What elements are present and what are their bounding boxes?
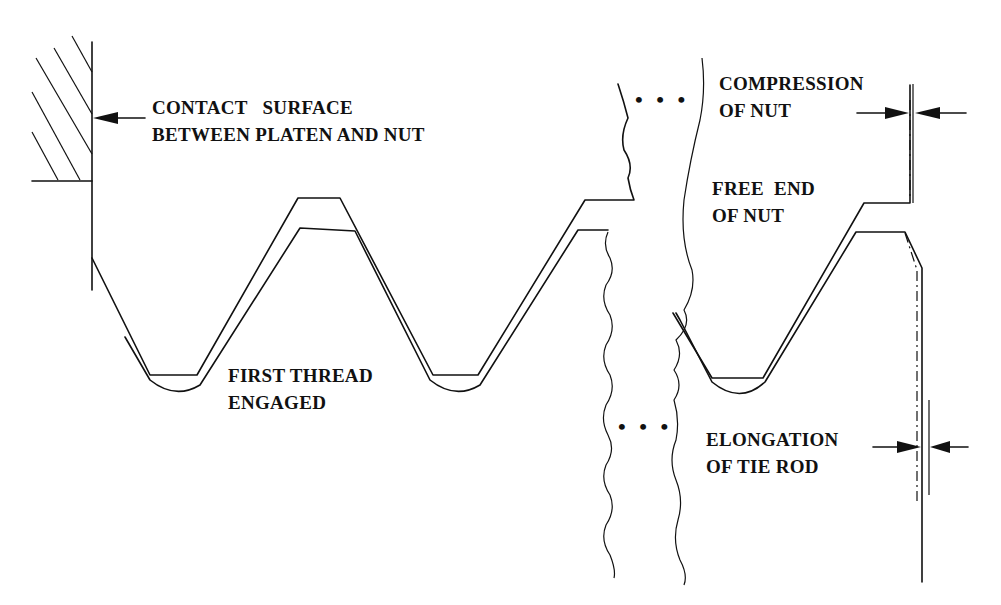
break-line-right — [672, 58, 704, 585]
first-thread-label: FIRST THREAD ENGAGED — [228, 362, 373, 416]
free-end-label-line2: OF NUT — [712, 202, 815, 229]
elongation-dimension-arrows — [873, 400, 968, 495]
tie-rod-thread-profile-right — [676, 232, 922, 582]
free-end-label-line1: FREE END — [712, 175, 815, 202]
platen — [32, 36, 92, 290]
elongation-label-line2: OF TIE ROD — [706, 453, 839, 480]
contact-surface-label-line1: CONTACT SURFACE — [152, 94, 425, 121]
elongation-label: ELONGATION OF TIE ROD — [706, 426, 839, 480]
contact-surface-arrow — [93, 112, 145, 124]
free-end-label: FREE END OF NUT — [712, 175, 815, 229]
first-thread-label-line1: FIRST THREAD — [228, 362, 373, 389]
compression-dimension-arrows — [857, 107, 966, 119]
rod-centerline-shifted — [905, 233, 917, 505]
contact-surface-label-line2: BETWEEN PLATEN AND NUT — [152, 121, 425, 148]
ellipsis-top: • • • — [635, 86, 689, 113]
break-line-left — [603, 232, 614, 578]
elongation-label-line1: ELONGATION — [706, 426, 839, 453]
first-thread-label-line2: ENGAGED — [228, 389, 373, 416]
platen-hatching — [32, 36, 92, 180]
compression-label: COMPRESSION OF NUT — [719, 70, 864, 124]
compression-label-line1: COMPRESSION — [719, 70, 864, 97]
contact-surface-label: CONTACT SURFACE BETWEEN PLATEN AND NUT — [152, 94, 425, 148]
ellipsis-bottom: • • • — [618, 413, 672, 440]
compression-label-line2: OF NUT — [719, 97, 864, 124]
